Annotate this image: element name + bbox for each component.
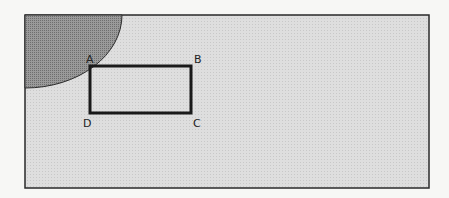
label-d: D xyxy=(83,117,91,130)
label-a: A xyxy=(86,53,94,66)
diagram-canvas: A B C D xyxy=(0,0,449,198)
label-b: B xyxy=(194,53,202,66)
label-c: C xyxy=(193,117,201,130)
